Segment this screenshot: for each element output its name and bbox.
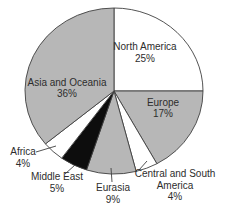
pie-chart-figure: North America25%Europe17%Central and Sou… bbox=[0, 0, 227, 214]
slice-label-central-and-south-america-value: 4% bbox=[168, 191, 183, 202]
slice-label-asia-and-oceania: Asia and Oceania bbox=[28, 77, 107, 88]
slice-label-africa: Africa bbox=[10, 146, 36, 157]
slice-label-central-and-south-america: Central and South bbox=[135, 168, 216, 179]
slice-label-asia-and-oceania-value: 36% bbox=[57, 88, 77, 99]
slice-label-middle-east-value: 5% bbox=[50, 183, 65, 194]
slice-label-europe: Europe bbox=[147, 97, 180, 108]
pie-chart: North America25%Europe17%Central and Sou… bbox=[0, 0, 227, 214]
slice-label-europe-value: 17% bbox=[153, 108, 173, 119]
slice-label-eurasia: Eurasia bbox=[96, 182, 130, 193]
slice-label-central-and-south-america: America bbox=[157, 180, 194, 191]
slice-label-north-america: North America bbox=[113, 41, 177, 52]
slice-label-north-america-value: 25% bbox=[135, 53, 155, 64]
slice-label-middle-east: Middle East bbox=[31, 171, 83, 182]
slice-label-eurasia-value: 9% bbox=[106, 194, 121, 205]
slice-label-africa-value: 4% bbox=[16, 158, 31, 169]
